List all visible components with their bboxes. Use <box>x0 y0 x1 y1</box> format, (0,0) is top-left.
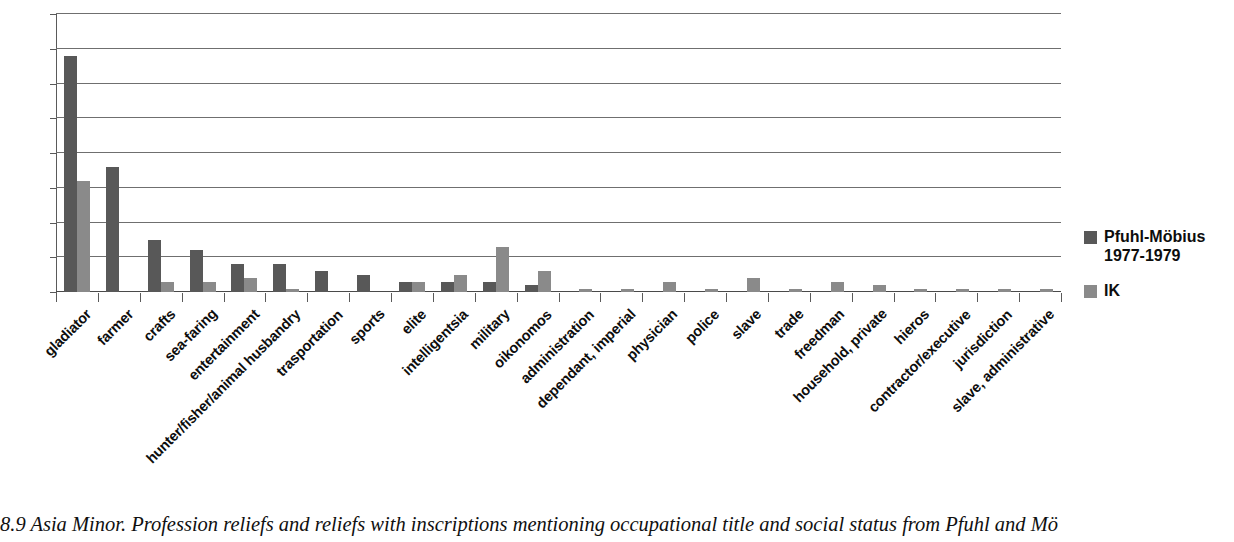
x-tick-mark <box>433 293 434 302</box>
x-tick-mark <box>559 293 560 302</box>
bar <box>148 240 161 292</box>
bar-group <box>441 14 467 292</box>
x-axis-labels: gladiatorfarmercraftssea-faringentertain… <box>0 302 1070 502</box>
bar <box>454 275 467 292</box>
x-tick-mark <box>600 293 601 302</box>
bar-group <box>608 14 634 292</box>
bar-group <box>273 14 299 292</box>
legend-label: IK <box>1104 282 1120 301</box>
bar <box>873 285 886 292</box>
bar <box>538 271 551 292</box>
x-tick-mark <box>726 293 727 302</box>
bar-group <box>1027 14 1053 292</box>
x-tick-mark <box>391 293 392 302</box>
x-axis-label: crafts <box>140 306 178 344</box>
y-tick-mark <box>50 49 57 50</box>
figure-caption: 8.9 Asia Minor. Profession reliefs and r… <box>0 513 1234 537</box>
bar <box>525 285 538 292</box>
x-axis-label: gladiator <box>41 306 94 359</box>
bar <box>231 264 244 292</box>
bar <box>1040 289 1053 292</box>
plot-area <box>56 14 1061 292</box>
bar-group <box>64 14 90 292</box>
x-axis-label: hieros <box>891 306 932 347</box>
bar <box>956 289 969 292</box>
bar <box>747 278 760 292</box>
x-tick-mark <box>684 293 685 302</box>
bar <box>399 282 412 292</box>
bar <box>106 167 119 292</box>
bar-group <box>734 14 760 292</box>
bar-group <box>315 14 341 292</box>
x-axis-label: administration <box>517 306 597 386</box>
bar <box>483 282 496 292</box>
x-axis-label: hunter/fisher/animal husbandry <box>143 306 303 466</box>
y-tick-mark <box>50 84 57 85</box>
bar <box>64 56 77 292</box>
figure: 01020304050607080 gladiatorfarmercraftss… <box>0 0 1234 542</box>
bar <box>831 282 844 292</box>
legend-label: Pfuhl-Möbius 1977-1979 <box>1104 228 1205 266</box>
x-tick-mark <box>517 293 518 302</box>
x-tick-mark <box>224 293 225 302</box>
bar-group <box>860 14 886 292</box>
bar-group <box>776 14 802 292</box>
bar <box>789 289 802 292</box>
x-axis-label: police <box>682 306 722 346</box>
x-tick-mark <box>852 293 853 302</box>
bar <box>412 282 425 292</box>
x-axis-label: elite <box>398 306 429 337</box>
bar <box>77 181 90 292</box>
x-axis-label: slave <box>728 306 764 342</box>
x-axis-label: trade <box>771 306 807 342</box>
bar <box>705 289 718 292</box>
legend-swatch-icon <box>1084 231 1097 244</box>
bar-group <box>190 14 216 292</box>
bar-group <box>399 14 425 292</box>
bar-group <box>106 14 132 292</box>
x-axis-label: farmer <box>94 306 136 348</box>
bar <box>244 278 257 292</box>
x-tick-mark <box>1061 293 1062 302</box>
bar <box>914 289 927 292</box>
bar <box>357 275 370 292</box>
x-tick-mark <box>182 293 183 302</box>
x-tick-mark <box>810 293 811 302</box>
bar <box>579 289 592 292</box>
x-tick-mark <box>140 293 141 302</box>
chart-legend: Pfuhl-Möbius 1977-1979 IK <box>1084 228 1234 317</box>
bar <box>621 289 634 292</box>
y-tick-mark <box>50 118 57 119</box>
x-tick-mark <box>935 293 936 302</box>
x-tick-mark <box>642 293 643 302</box>
x-tick-mark <box>56 293 57 302</box>
bar <box>315 271 328 292</box>
bar-group <box>357 14 383 292</box>
bar-group <box>566 14 592 292</box>
x-tick-mark <box>977 293 978 302</box>
bar-group <box>692 14 718 292</box>
bar-group <box>650 14 676 292</box>
bar <box>161 282 174 292</box>
legend-swatch-icon <box>1084 285 1097 298</box>
legend-entry-ik: IK <box>1084 282 1234 301</box>
x-tick-mark <box>98 293 99 302</box>
bar <box>190 250 203 292</box>
y-tick-mark <box>50 188 57 189</box>
legend-entry-pfuhl-mobius: Pfuhl-Möbius 1977-1979 <box>1084 228 1234 266</box>
y-tick-mark <box>50 223 57 224</box>
y-tick-mark <box>50 14 57 15</box>
x-axis-label: sports <box>346 306 388 348</box>
bar-chart: 01020304050607080 gladiatorfarmercraftss… <box>0 0 1070 300</box>
bar-group <box>818 14 844 292</box>
bar <box>663 282 676 292</box>
bar <box>273 264 286 292</box>
x-tick-mark <box>475 293 476 302</box>
bar <box>286 289 299 292</box>
bar <box>998 289 1011 292</box>
bar-group <box>901 14 927 292</box>
bar-group <box>943 14 969 292</box>
x-tick-mark <box>349 293 350 302</box>
x-tick-mark <box>307 293 308 302</box>
bar-group <box>231 14 257 292</box>
